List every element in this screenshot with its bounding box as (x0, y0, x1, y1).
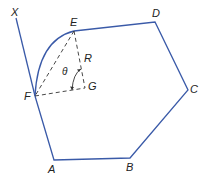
label-R: R (84, 53, 92, 64)
polygon-edges (35, 22, 188, 160)
label-B: B (126, 162, 133, 173)
label-X: X (11, 7, 18, 18)
label-A: A (48, 164, 55, 175)
label-theta: θ (62, 67, 67, 77)
label-F: F (24, 91, 31, 102)
label-D: D (152, 8, 160, 19)
label-E: E (70, 17, 77, 28)
angle-theta-arc (72, 69, 81, 90)
label-G: G (88, 81, 97, 92)
radius-FG (35, 88, 85, 96)
tangent-line-XF (16, 18, 35, 96)
label-C: C (190, 84, 198, 95)
